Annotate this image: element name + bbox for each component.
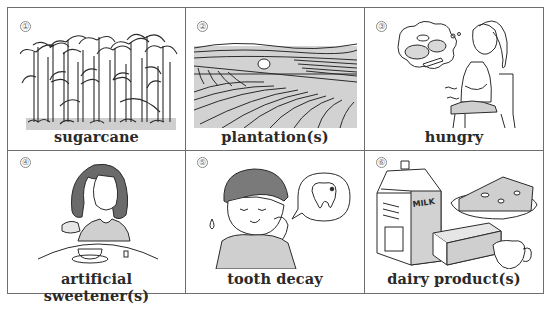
card-label: artificial sweetener(s) [8, 270, 185, 304]
card-number: ② [197, 21, 208, 32]
card-hungry: ③ hungry [365, 8, 543, 150]
card-label: sugarcane [8, 128, 185, 145]
card-tooth-decay: ⑤ tooth decay [186, 151, 364, 293]
card-number: ① [20, 21, 31, 32]
card-number: ④ [20, 157, 31, 168]
plantation-illustration [194, 38, 357, 128]
card-number: ⑤ [197, 157, 208, 168]
card-label: dairy product(s) [365, 270, 543, 287]
sweetener-woman-illustration [38, 155, 168, 265]
card-label: hungry [365, 128, 543, 145]
hungry-woman-illustration [365, 10, 543, 128]
card-label: tooth decay [186, 270, 364, 287]
sugarcane-illustration [20, 22, 180, 132]
card-plantation: ② plantation(s) [186, 8, 364, 150]
toothache-boy-illustration [194, 161, 359, 269]
dairy-products-illustration: MILK [373, 157, 538, 269]
card-dairy-products: ⑥ MILK dairy product(s) [365, 151, 543, 293]
card-sugarcane: ① sugarcane [8, 8, 185, 150]
card-label: plantation(s) [186, 128, 364, 145]
card-artificial-sweetener: ④ artificial sweetener(s) [8, 151, 185, 293]
card-number: ⑥ [376, 157, 387, 168]
card-number: ③ [376, 21, 387, 32]
